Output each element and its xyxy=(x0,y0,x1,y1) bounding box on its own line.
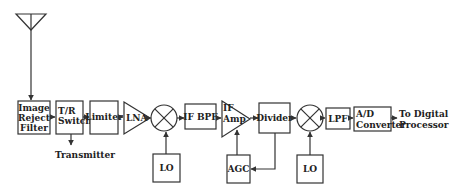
if-amp-label-2: Amp xyxy=(222,114,246,124)
mixer2-icon xyxy=(297,105,323,131)
divider-block: Divider xyxy=(256,103,293,133)
image-reject-filter-label-1: Image xyxy=(18,103,50,113)
output-label-1: To Digital xyxy=(399,109,449,119)
edge-divider-agc xyxy=(251,133,275,169)
receiver-block-diagram: Image Reject Filter T/R Switch Transmitt… xyxy=(0,0,457,193)
divider-label: Divider xyxy=(256,113,293,123)
lpf-label: LPF xyxy=(328,114,348,124)
limiter-label: Limiter xyxy=(85,112,123,122)
tr-switch-label-1: T/R xyxy=(58,106,76,116)
lpf-block: LPF xyxy=(326,108,350,129)
if-amp-amplifier: IF Amp xyxy=(222,101,250,137)
if-bpf-block: IF BPF xyxy=(183,104,218,129)
lo2-block: LO xyxy=(297,155,323,183)
lna-amplifier: LNA xyxy=(124,102,150,134)
lo2-label: LO xyxy=(303,164,317,174)
if-amp-label-1: IF xyxy=(223,103,234,113)
limiter-block: Limiter xyxy=(85,101,123,134)
lo1-block: LO xyxy=(153,154,180,182)
agc-block: AGC xyxy=(227,155,250,183)
antenna-icon xyxy=(16,14,46,100)
agc-label: AGC xyxy=(227,164,250,174)
if-bpf-label: IF BPF xyxy=(183,112,218,122)
mixer1-icon xyxy=(151,105,177,131)
image-reject-filter-label-2: Reject xyxy=(18,113,51,123)
transmitter-label: Transmitter xyxy=(55,150,115,160)
output-label-2: Processor xyxy=(399,120,449,130)
image-reject-filter-label-3: Filter xyxy=(20,123,48,133)
ad-converter-label-1: A/D xyxy=(355,109,374,119)
image-reject-filter-block: Image Reject Filter xyxy=(18,101,51,134)
lna-label: LNA xyxy=(126,113,149,123)
lo1-label: LO xyxy=(159,163,173,173)
